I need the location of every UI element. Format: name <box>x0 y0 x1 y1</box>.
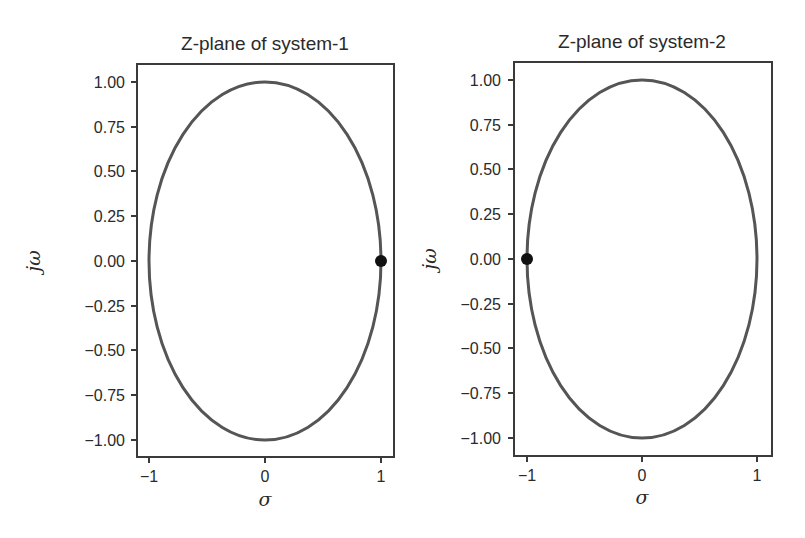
unit-circle <box>149 82 381 440</box>
x-tick-label: −1 <box>140 468 158 485</box>
y-tick-label: 0.50 <box>470 161 501 178</box>
y-tick-labels: 1.00 0.75 0.50 0.25 0.00 −0.25 −0.50 −0.… <box>85 74 126 449</box>
y-tick-label: 1.00 <box>470 72 501 89</box>
y-tick-label: 0.75 <box>94 119 125 136</box>
y-tick-label: 0.25 <box>94 208 125 225</box>
x-tick-label: 0 <box>261 468 270 485</box>
y-tick-label: −1.00 <box>461 430 502 447</box>
plot-title: Z-plane of system-2 <box>558 31 726 52</box>
y-tick-label: 0.75 <box>470 117 501 134</box>
x-tick-label: 1 <box>753 467 762 484</box>
y-tick-label: 0.25 <box>470 206 501 223</box>
plot-system-1: Z-plane of system-1 1.00 0.75 0.50 0.25 … <box>22 33 394 510</box>
x-tick-labels: −1 0 1 <box>518 467 762 484</box>
x-axis-label: σ <box>259 488 273 510</box>
plot-frame <box>514 62 772 456</box>
y-tick-label: 0.00 <box>470 251 501 268</box>
plot-frame <box>137 64 394 457</box>
y-tick-label: −0.50 <box>461 340 502 357</box>
y-tick-label: −0.75 <box>85 387 126 404</box>
plot-title: Z-plane of system-1 <box>181 33 349 54</box>
y-tick-label: −0.25 <box>85 298 126 315</box>
pole-zero-point <box>375 255 387 267</box>
y-tick-labels: 1.00 0.75 0.50 0.25 0.00 −0.25 −0.50 −0.… <box>461 72 502 447</box>
figure: Z-plane of system-1 1.00 0.75 0.50 0.25 … <box>0 0 805 538</box>
plot-system-2: Z-plane of system-2 1.00 0.75 0.50 0.25 … <box>418 31 772 508</box>
y-tick-label: −0.25 <box>461 296 502 313</box>
x-tick-labels: −1 0 1 <box>140 468 386 485</box>
unit-circle <box>527 80 757 438</box>
y-axis-label: jω <box>418 248 440 273</box>
pole-zero-point <box>521 253 533 265</box>
y-tick-label: −1.00 <box>85 432 126 449</box>
y-tick-label: 0.00 <box>94 253 125 270</box>
x-tick-label: 0 <box>638 467 647 484</box>
x-axis-label: σ <box>636 486 650 508</box>
y-tick-label: 0.50 <box>94 163 125 180</box>
x-tick-label: −1 <box>518 467 536 484</box>
y-tick-label: −0.50 <box>85 342 126 359</box>
x-tick-label: 1 <box>377 468 386 485</box>
y-tick-label: 1.00 <box>94 74 125 91</box>
y-tick-label: −0.75 <box>461 385 502 402</box>
y-axis-label: jω <box>22 250 44 275</box>
